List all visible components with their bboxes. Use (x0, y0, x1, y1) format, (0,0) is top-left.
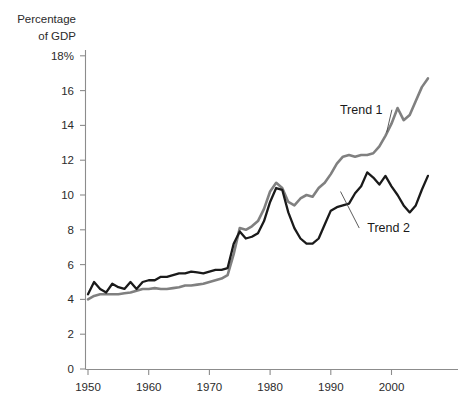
y-tick-label: 18% (51, 50, 74, 62)
y-tick-label: 2 (68, 328, 74, 340)
y-tick-label: 16 (61, 85, 74, 97)
y-tick-label: 0 (68, 363, 74, 375)
x-tick-label: 1980 (257, 381, 283, 393)
annotation-label-1: Trend 1 (340, 103, 383, 117)
chart-canvas: Percentage of GDP 024681012141618% 19501… (0, 0, 465, 407)
y-axis-title-line1: Percentage (17, 13, 76, 25)
chart-figure: Percentage of GDP 024681012141618% 19501… (0, 0, 465, 407)
x-tick-label: 1990 (318, 381, 344, 393)
x-tick-label: 1950 (75, 381, 101, 393)
y-axis-title-line2: of GDP (38, 30, 76, 42)
x-tick-label: 2000 (379, 381, 405, 393)
x-tick-label: 1970 (197, 381, 223, 393)
y-tick-label: 10 (61, 189, 74, 201)
y-tick-label: 4 (68, 293, 75, 305)
y-tick-label: 8 (68, 224, 74, 236)
y-tick-label: 6 (68, 259, 74, 271)
y-tick-label: 12 (61, 154, 74, 166)
y-tick-label: 14 (61, 119, 74, 131)
x-tick-label: 1960 (136, 381, 162, 393)
annotation-label-2: Trend 2 (367, 221, 410, 235)
